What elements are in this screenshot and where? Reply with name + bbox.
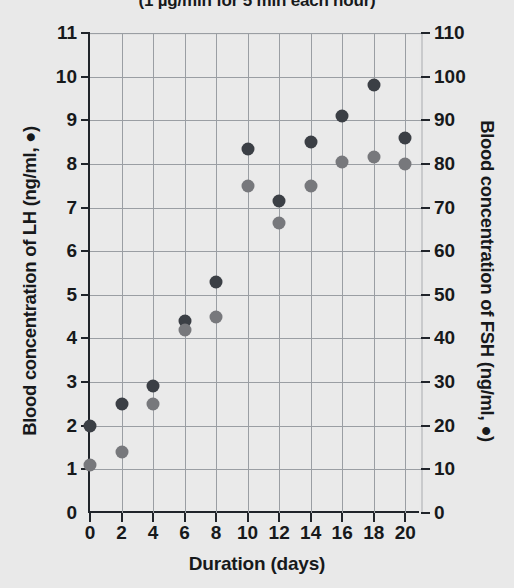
y-axis-right-title: Blood concentration of FSH (ng/ml, ●)	[476, 51, 498, 511]
y-axis-right-tick	[421, 468, 430, 470]
gridline-horizontal	[90, 338, 421, 339]
y-axis-right-tick-label: 50	[434, 284, 455, 306]
y-axis-left-tick	[81, 119, 90, 121]
data-point	[241, 179, 254, 192]
y-axis-right-tick	[421, 32, 430, 34]
y-axis-right-tick-label: 60	[434, 240, 455, 262]
y-axis-left-title: Blood concentration of LH (ng/ml, ●)	[19, 51, 41, 511]
y-axis-left-tick	[81, 337, 90, 339]
x-axis-tick	[121, 513, 123, 522]
data-point	[241, 142, 254, 155]
y-axis-left-tick-label: 5	[66, 284, 77, 306]
y-axis-left-tick	[81, 32, 90, 34]
gridline-horizontal	[90, 208, 421, 209]
y-axis-left-tick	[81, 207, 90, 209]
x-axis-tick	[373, 513, 375, 522]
y-axis-right-tick	[421, 381, 430, 383]
y-axis-right-tick-label: 0	[434, 502, 445, 524]
data-point	[336, 109, 349, 122]
y-axis-right-tick-label: 110	[434, 22, 465, 44]
x-axis-tick-label: 20	[395, 522, 416, 544]
gridline-vertical	[342, 33, 343, 513]
gridline-horizontal	[90, 295, 421, 296]
y-axis-right-tick	[421, 207, 430, 209]
y-axis-right-tick	[421, 512, 430, 514]
x-axis-tick-label: 2	[116, 522, 127, 544]
x-axis-tick	[89, 513, 91, 522]
data-point	[399, 131, 412, 144]
data-point	[84, 419, 97, 432]
y-axis-right-tick-label: 30	[434, 371, 455, 393]
chart-title: (1 µg/min for 5 min each hour)	[0, 0, 514, 11]
data-point	[147, 380, 160, 393]
gridline-vertical	[248, 33, 249, 513]
x-axis-tick-label: 6	[179, 522, 190, 544]
y-axis-right-tick-label: 100	[434, 66, 466, 88]
y-axis-left-tick-label: 1	[66, 458, 77, 480]
gridline-horizontal	[90, 251, 421, 252]
y-axis-right-tick-label: 80	[434, 153, 455, 175]
gridline-horizontal	[90, 120, 421, 121]
y-axis-right-tick	[421, 294, 430, 296]
x-axis-tick	[152, 513, 154, 522]
x-axis-tick-label: 18	[363, 522, 384, 544]
y-axis-right-tick	[421, 119, 430, 121]
y-axis-left-tick	[81, 381, 90, 383]
y-axis-right-tick	[421, 163, 430, 165]
x-axis-tick-label: 8	[211, 522, 222, 544]
x-axis-tick-label: 0	[85, 522, 96, 544]
x-axis-tick-label: 10	[237, 522, 258, 544]
gridline-vertical	[122, 33, 123, 513]
x-axis-tick	[215, 513, 217, 522]
y-axis-left-tick	[81, 294, 90, 296]
x-axis-tick	[184, 513, 186, 522]
data-point	[367, 151, 380, 164]
gridline-horizontal	[90, 164, 421, 165]
y-axis-left-tick-label: 4	[66, 327, 77, 349]
y-axis-left-tick-label: 2	[66, 415, 77, 437]
x-axis-tick	[278, 513, 280, 522]
y-axis-left-tick	[81, 163, 90, 165]
gridline-vertical	[153, 33, 154, 513]
x-axis-tick-label: 16	[332, 522, 353, 544]
y-axis-right-tick-label: 20	[434, 415, 455, 437]
y-axis-left-tick	[81, 76, 90, 78]
gridline-vertical	[374, 33, 375, 513]
x-axis-tick-label: 14	[300, 522, 321, 544]
right-axis-spine	[421, 33, 423, 513]
plot-area: 0123456789101101020304050607080901001100…	[88, 33, 419, 513]
y-axis-left-tick-label: 6	[66, 240, 77, 262]
y-axis-left-tick-label: 3	[66, 371, 77, 393]
gridline-vertical	[311, 33, 312, 513]
y-axis-right-tick	[421, 76, 430, 78]
data-point	[273, 216, 286, 229]
y-axis-left-tick-label: 8	[66, 153, 77, 175]
x-axis-tick-label: 4	[148, 522, 159, 544]
x-axis-tick	[341, 513, 343, 522]
data-point	[115, 445, 128, 458]
data-point	[273, 195, 286, 208]
data-point	[367, 79, 380, 92]
gridline-horizontal	[90, 382, 421, 383]
y-axis-left-tick-label: 0	[66, 502, 77, 524]
y-axis-left-tick-label: 11	[57, 22, 77, 44]
data-point	[399, 157, 412, 170]
gridline-vertical	[185, 33, 186, 513]
gridline-vertical	[279, 33, 280, 513]
y-axis-left-tick-label: 10	[56, 66, 77, 88]
chart-figure: (1 µg/min for 5 min each hour) Blood con…	[0, 0, 514, 588]
x-axis-title: Duration (days)	[0, 553, 514, 575]
data-point	[304, 179, 317, 192]
gridline-vertical	[405, 33, 406, 513]
data-point	[304, 136, 317, 149]
x-axis-tick	[247, 513, 249, 522]
gridline-vertical	[216, 33, 217, 513]
y-axis-left-tick	[81, 250, 90, 252]
x-axis-tick	[404, 513, 406, 522]
gridline-horizontal	[90, 33, 421, 34]
y-axis-right-tick	[421, 425, 430, 427]
data-point	[210, 310, 223, 323]
data-point	[84, 459, 97, 472]
data-point	[147, 397, 160, 410]
gridline-horizontal	[90, 77, 421, 78]
